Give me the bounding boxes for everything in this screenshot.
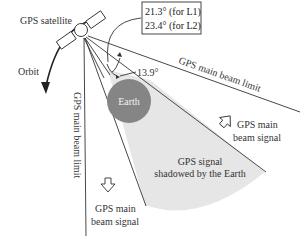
satellite-label: GPS satellite [20,15,73,26]
angle-l1-label: 21.3° (for L1) [145,6,201,18]
angle-arc-inner [112,58,120,72]
orbit-arrow-icon [41,19,100,94]
right-signal-label-line1: GPS main [237,119,278,130]
ray-line [84,38,104,78]
shadow-label-line2: shadowed by the Earth [154,168,245,179]
hollow-arrow-icon [216,111,235,130]
ray-line [85,38,110,75]
left-signal-label-line1: GPS main [95,203,136,214]
hollow-arrow-icon [101,178,115,192]
left-beam-limit-line [84,38,86,236]
shadow-label-line1: GPS signal [178,156,223,167]
earth-angle-label: 13.9° [137,67,159,78]
angle-l2-label: 23.4° (for L2) [145,20,201,32]
right-beam-limit-label: GPS main beam limit [177,55,262,94]
orbit-label: Orbit [18,66,39,77]
left-beam-limit-label: GPS main beam limit [72,92,83,179]
gps-beam-diagram: Earth 21.3° (for L1) 23.4° (for L2) [0,0,305,242]
right-signal-label-line2: beam signal [233,132,281,143]
earth-label: Earth [118,96,140,107]
left-signal-label-line2: beam signal [91,216,139,227]
angle-arc-main [107,18,141,62]
angle-arrowhead [117,52,122,57]
